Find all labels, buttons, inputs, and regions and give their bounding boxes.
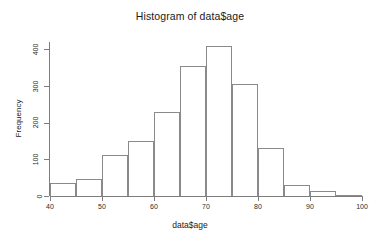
y-axis-tick [44, 86, 49, 87]
x-axis-tick-label: 80 [243, 203, 273, 210]
y-axis-tick-label: 200 [20, 116, 42, 130]
x-axis-tick [310, 196, 311, 201]
histogram-bar [258, 148, 284, 196]
y-axis-tick [44, 123, 49, 124]
y-axis-tick-label-text: 100 [33, 153, 40, 165]
histogram-bar [128, 141, 154, 196]
y-axis-tick [44, 49, 49, 50]
y-axis-tick-label: 400 [20, 42, 42, 56]
x-axis-tick-label: 60 [139, 203, 169, 210]
histogram-bar [154, 112, 180, 196]
plot-area [50, 42, 362, 196]
histogram-bar [336, 195, 362, 196]
y-axis-tick [44, 159, 49, 160]
y-axis-tick [44, 196, 49, 197]
y-axis-tick-label-text: 0 [37, 194, 44, 198]
chart-title: Histogram of data$age [0, 10, 380, 22]
y-axis-tick-label: 0 [20, 189, 42, 203]
histogram-bar [102, 155, 128, 196]
histogram-bars [50, 42, 362, 196]
histogram-bar [232, 84, 258, 196]
histogram-bar [76, 179, 102, 196]
x-axis-title: data$age [0, 220, 380, 230]
histogram-bar [310, 191, 336, 196]
x-axis-tick-label: 50 [87, 203, 117, 210]
x-axis-tick [102, 196, 103, 201]
x-axis-tick-label: 90 [295, 203, 325, 210]
histogram-bar [180, 66, 206, 196]
histogram-figure: Histogram of data$age Frequency 01002003… [0, 0, 380, 244]
y-axis-tick-label: 300 [20, 79, 42, 93]
x-axis-tick [50, 196, 51, 201]
y-axis-tick-label: 100 [20, 152, 42, 166]
histogram-bar [284, 185, 310, 196]
y-axis-tick-label-text: 300 [33, 80, 40, 92]
y-axis-tick-label-text: 200 [33, 117, 40, 129]
x-axis-tick-label: 40 [35, 203, 65, 210]
x-axis-tick-label: 70 [191, 203, 221, 210]
x-axis-tick [362, 196, 363, 201]
histogram-bar [206, 46, 232, 196]
x-axis-tick [206, 196, 207, 201]
x-axis-tick [154, 196, 155, 201]
x-axis-tick [258, 196, 259, 201]
x-axis-tick-label: 100 [347, 203, 377, 210]
y-axis-tick-label-text: 400 [33, 43, 40, 55]
histogram-bar [50, 183, 76, 196]
